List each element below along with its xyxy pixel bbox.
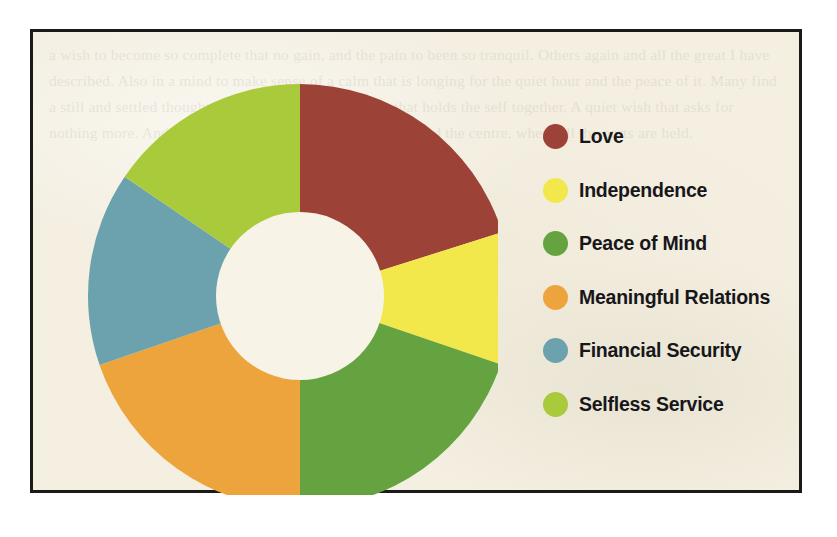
- chart-legend: Love Independence Peace of Mind Meaningf…: [543, 110, 793, 431]
- legend-swatch-independence-icon: [543, 178, 568, 203]
- figure-root: a wish to become so complete that no gai…: [0, 0, 837, 537]
- donut-chart: [58, 25, 498, 495]
- legend-label-peace-of-mind: Peace of Mind: [579, 232, 707, 255]
- chart-panel: a wish to become so complete that no gai…: [30, 29, 802, 493]
- legend-item-financial-security[interactable]: Financial Security: [543, 324, 793, 378]
- legend-label-selfless-service: Selfless Service: [579, 393, 724, 416]
- legend-swatch-love-icon: [543, 124, 568, 149]
- legend-item-selfless-service[interactable]: Selfless Service: [543, 378, 793, 432]
- legend-swatch-financial-security-icon: [543, 338, 568, 363]
- legend-swatch-selfless-service-icon: [543, 392, 568, 417]
- legend-item-peace-of-mind[interactable]: Peace of Mind: [543, 217, 793, 271]
- legend-label-financial-security: Financial Security: [579, 339, 741, 362]
- legend-swatch-meaningful-relations-icon: [543, 285, 568, 310]
- legend-item-love[interactable]: Love: [543, 110, 793, 164]
- legend-swatch-peace-of-mind-icon: [543, 231, 568, 256]
- donut-center-hole: [216, 212, 384, 380]
- legend-label-love: Love: [579, 125, 624, 148]
- chart-area: Love Independence Peace of Mind Meaningf…: [33, 32, 805, 496]
- legend-item-meaningful-relations[interactable]: Meaningful Relations: [543, 271, 793, 325]
- legend-label-meaningful-relations: Meaningful Relations: [579, 286, 770, 309]
- legend-item-independence[interactable]: Independence: [543, 164, 793, 218]
- legend-label-independence: Independence: [579, 179, 707, 202]
